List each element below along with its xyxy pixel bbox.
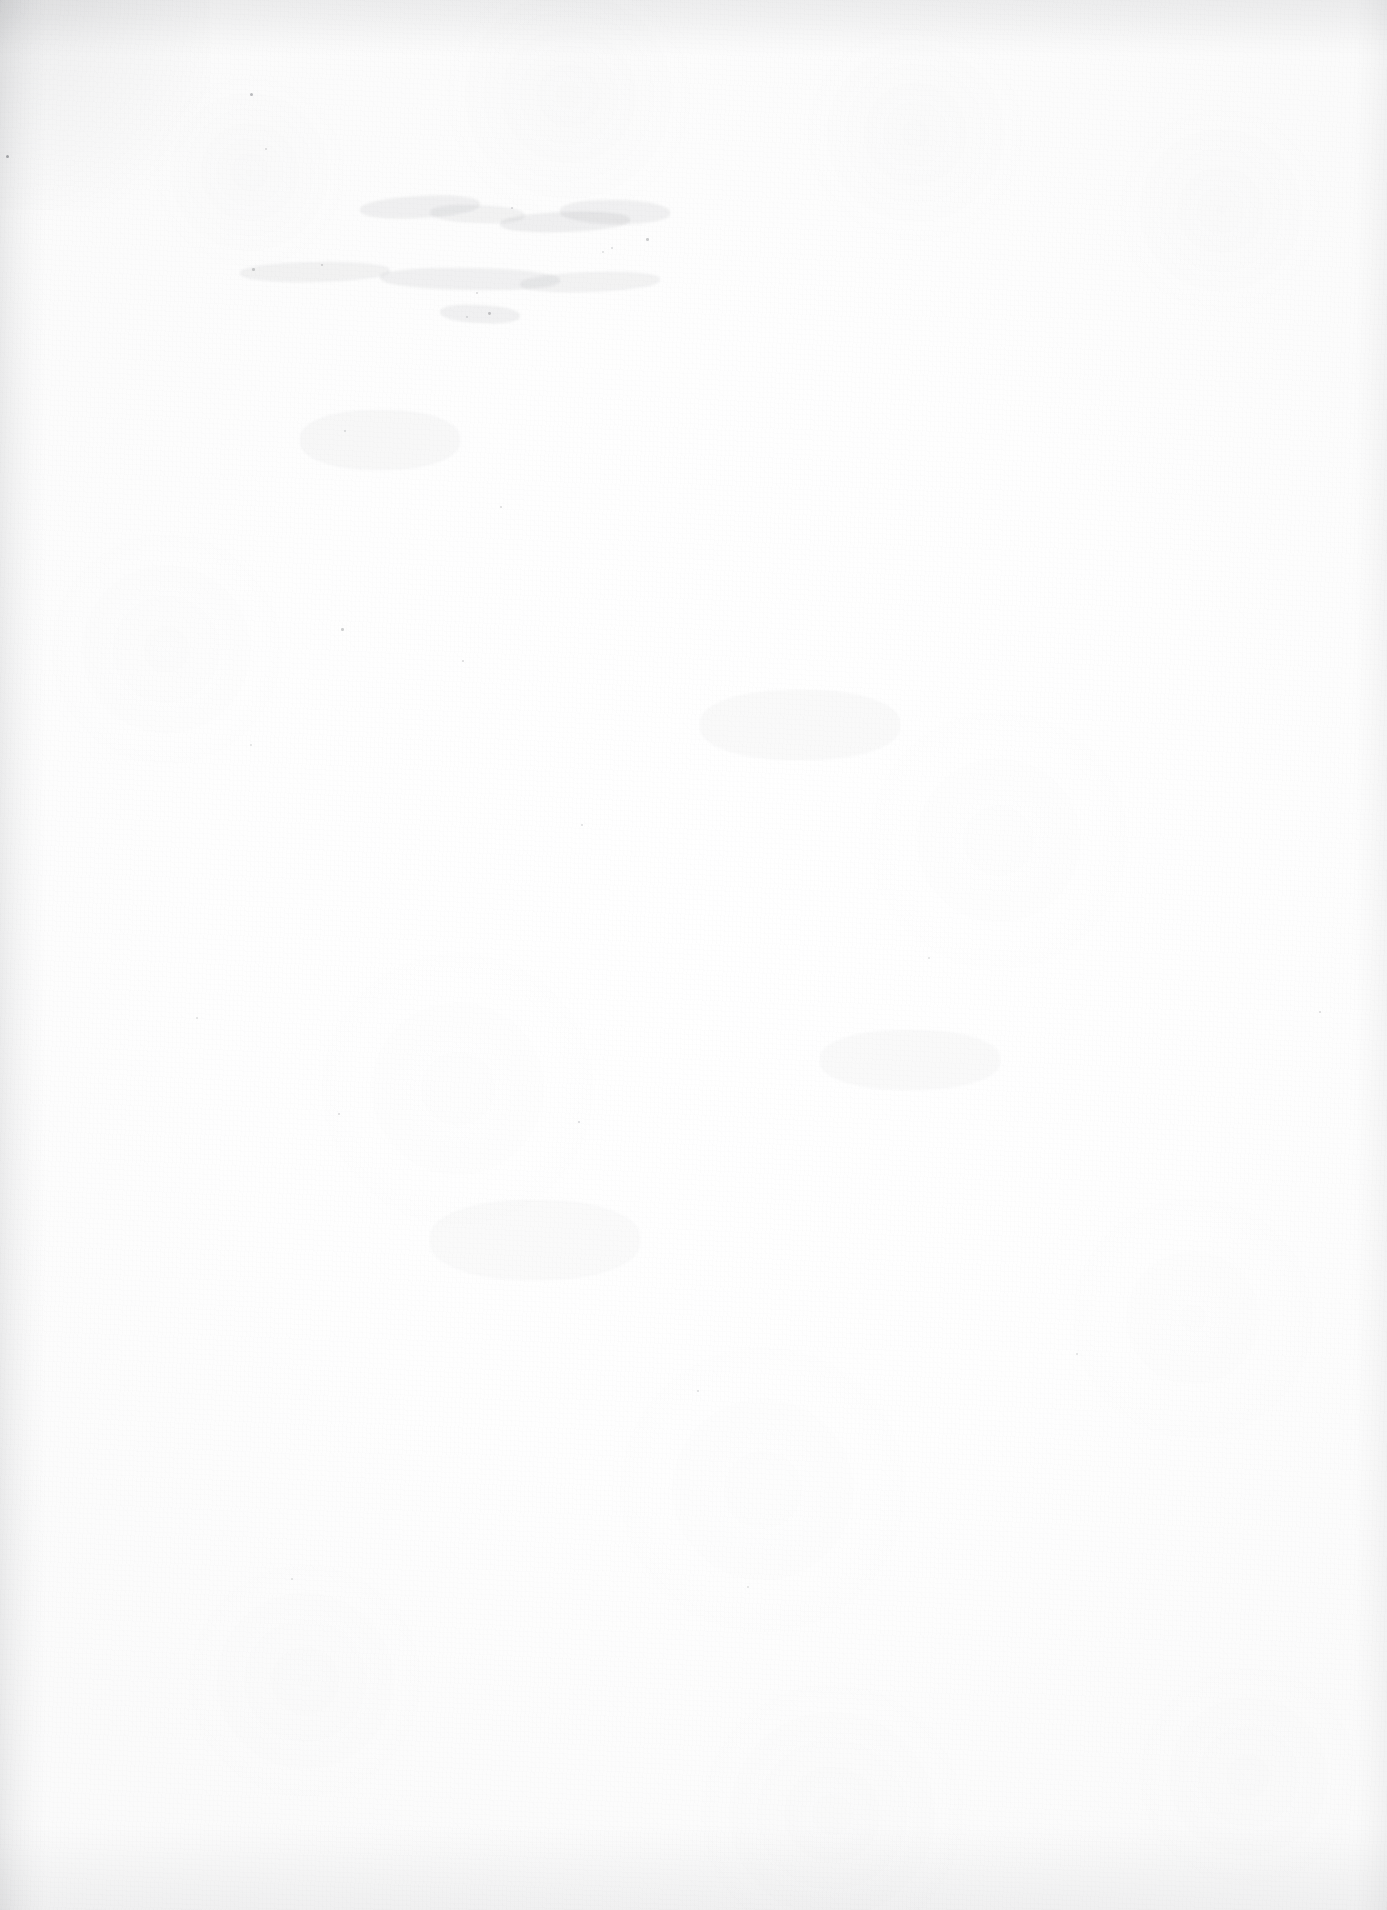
scanned-page [0,0,1387,1910]
page-text-content [0,0,1387,1910]
